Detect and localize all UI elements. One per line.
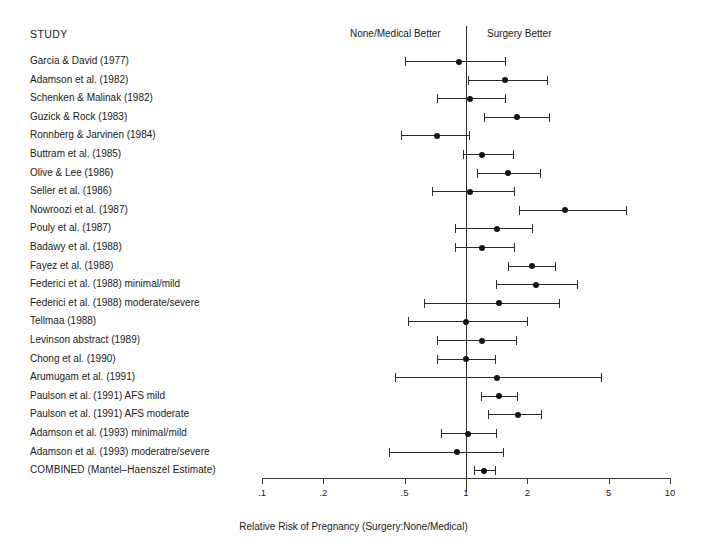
confidence-interval-line: [424, 303, 559, 304]
confidence-interval-line: [519, 210, 626, 211]
study-label: Schenken & Malinak (1982): [30, 92, 153, 103]
study-label: Fayez et al. (1988): [30, 260, 113, 271]
left-direction-label: None/Medical Better: [350, 28, 441, 39]
point-estimate-marker: [562, 207, 568, 213]
ci-high-cap: [540, 169, 541, 178]
confidence-interval-line: [437, 340, 516, 341]
point-estimate-marker: [479, 245, 485, 251]
ci-high-cap: [559, 299, 560, 308]
study-label-combined: COMBINED (Mantel–Haenszel Estimate): [30, 464, 216, 475]
ci-high-cap: [517, 392, 518, 401]
ci-low-cap: [437, 355, 438, 364]
ci-low-cap: [432, 187, 433, 196]
ci-high-cap: [513, 150, 514, 159]
ci-low-cap: [437, 336, 438, 345]
study-label: Buttram et al. (1985): [30, 148, 121, 159]
confidence-interval-line: [455, 228, 532, 229]
ci-low-cap: [488, 410, 489, 419]
x-axis-tick: [405, 478, 406, 484]
study-label: Paulson et al. (1991) AFS mild: [30, 390, 165, 401]
ci-high-cap: [495, 355, 496, 364]
ci-low-cap: [455, 224, 456, 233]
point-estimate-marker: [505, 170, 511, 176]
confidence-interval-line: [477, 173, 540, 174]
point-estimate-marker: [496, 393, 502, 399]
combined-estimate-marker: [481, 468, 487, 474]
ci-high-cap: [541, 410, 542, 419]
ci-low-cap: [408, 317, 409, 326]
study-label: Olive & Lee (1986): [30, 167, 113, 178]
study-label: Seller et al. (1986): [30, 185, 112, 196]
ci-low-cap: [474, 466, 475, 475]
point-estimate-marker: [463, 319, 469, 325]
point-estimate-marker: [496, 300, 502, 306]
ci-low-cap: [477, 169, 478, 178]
ci-low-cap: [484, 113, 485, 122]
x-axis-tick-label: 5: [589, 487, 629, 498]
point-estimate-marker: [463, 356, 469, 362]
study-label: Pouly et al. (1987): [30, 222, 111, 233]
ci-low-cap: [401, 131, 402, 140]
confidence-interval-line: [455, 247, 514, 248]
ci-high-cap: [527, 317, 528, 326]
x-axis-tick: [527, 478, 528, 484]
ci-low-cap: [405, 57, 406, 66]
ci-high-cap: [577, 280, 578, 289]
x-axis-tick: [609, 478, 610, 484]
x-axis-tick: [466, 478, 467, 484]
ci-high-cap: [505, 57, 506, 66]
confidence-interval-line: [441, 433, 496, 434]
ci-high-cap: [514, 243, 515, 252]
ci-high-cap: [547, 76, 548, 85]
ci-high-cap: [626, 206, 627, 215]
x-axis-tick-label: 10: [650, 487, 690, 498]
ci-low-cap: [519, 206, 520, 215]
confidence-interval-line: [481, 396, 517, 397]
ci-high-cap: [505, 94, 506, 103]
study-label: Ronnberg & Jarvinen (1984): [30, 129, 156, 140]
study-label: Adamson et al. (1993) minimal/mild: [30, 427, 187, 438]
confidence-interval-line: [463, 154, 513, 155]
confidence-interval-line: [401, 135, 469, 136]
confidence-interval-line: [432, 191, 514, 192]
study-label: Paulson et al. (1991) AFS moderate: [30, 408, 189, 419]
point-estimate-marker: [514, 114, 520, 120]
ci-low-cap: [389, 448, 390, 457]
study-label: Nowroozi et al. (1987): [30, 204, 128, 215]
ci-low-cap: [496, 280, 497, 289]
ci-high-cap: [555, 262, 556, 271]
ci-high-cap: [532, 224, 533, 233]
point-estimate-marker: [479, 338, 485, 344]
point-estimate-marker: [502, 77, 508, 83]
x-axis-tick-label: .1: [242, 487, 282, 498]
confidence-interval-line: [395, 377, 601, 378]
ci-low-cap: [481, 392, 482, 401]
ci-high-cap: [503, 448, 504, 457]
reference-line: [466, 26, 467, 492]
point-estimate-marker: [456, 59, 462, 65]
study-label: Adamson et al. (1982): [30, 74, 128, 85]
study-label: Federici et al. (1988) moderate/severe: [30, 297, 200, 308]
confidence-interval-line: [437, 98, 505, 99]
x-axis-tick-label: .5: [385, 487, 425, 498]
ci-low-cap: [395, 373, 396, 382]
x-axis-tick: [323, 478, 324, 484]
x-axis-tick-label: .2: [303, 487, 343, 498]
confidence-interval-line: [508, 266, 555, 267]
ci-low-cap: [441, 429, 442, 438]
confidence-interval-line: [389, 452, 503, 453]
confidence-interval-line: [437, 359, 495, 360]
ci-low-cap: [463, 150, 464, 159]
ci-high-cap: [469, 131, 470, 140]
ci-high-cap: [516, 336, 517, 345]
point-estimate-marker: [479, 152, 485, 158]
confidence-interval-line: [484, 117, 549, 118]
study-label: Arumugam et al. (1991): [30, 371, 135, 382]
study-label: Guzick & Rock (1983): [30, 111, 127, 122]
study-label: Federici et al. (1988) minimal/mild: [30, 278, 180, 289]
point-estimate-marker: [465, 431, 471, 437]
study-label: Tellmaa (1988): [30, 315, 96, 326]
x-axis-tick-label: 2: [507, 487, 547, 498]
confidence-interval-line: [474, 470, 494, 471]
point-estimate-marker: [454, 449, 460, 455]
